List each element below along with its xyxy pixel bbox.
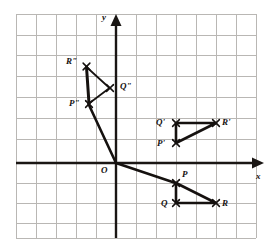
origin-label: O	[101, 166, 108, 175]
figure-background	[0, 0, 276, 250]
vertex-label-R: R	[222, 199, 228, 208]
x-axis-label: x	[256, 172, 261, 181]
vertex-label-R-double-prime: R"	[66, 57, 77, 66]
vertex-label-Q: Q	[161, 199, 168, 208]
vertex-label-P: P	[182, 170, 188, 179]
vertex-label-Q-double-prime: Q"	[120, 82, 132, 91]
y-axis-label: y	[102, 13, 106, 22]
coordinate-grid-figure: y x O P Q R P' Q' R' P" Q" R"	[0, 0, 276, 250]
vertex-label-Q-prime: Q'	[156, 118, 165, 127]
vertex-label-R-prime: R'	[222, 118, 231, 127]
vertex-label-P-double-prime: P"	[69, 99, 80, 108]
vertex-label-P-prime: P'	[157, 139, 165, 148]
figure-canvas	[0, 0, 276, 250]
